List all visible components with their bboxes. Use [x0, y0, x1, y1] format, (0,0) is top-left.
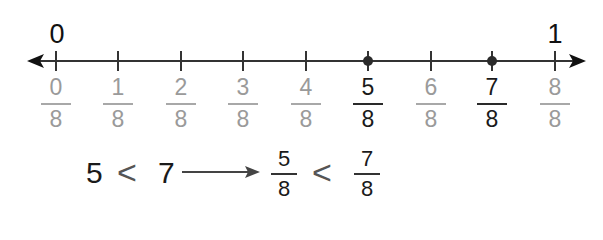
fraction-a: 5 8: [271, 148, 297, 200]
tick-fraction-label: 68: [416, 76, 446, 131]
numerator: 1: [103, 76, 133, 100]
numerator: 3: [228, 76, 258, 100]
start-label: 0: [49, 21, 64, 48]
numerator: 6: [416, 76, 446, 100]
fraction-bar: [41, 103, 71, 105]
tick-fraction-label: 48: [291, 76, 321, 131]
point-marker: [487, 56, 497, 66]
whole-number-b: 7: [158, 158, 175, 188]
fraction-a-denominator: 8: [271, 178, 297, 200]
fraction-bar: [540, 103, 570, 105]
denominator: 8: [228, 108, 258, 131]
denominator: 8: [291, 108, 321, 131]
denominator: 8: [41, 108, 71, 131]
denominator: 8: [166, 108, 196, 131]
fraction-bar: [166, 103, 196, 105]
fraction-bar: [291, 103, 321, 105]
tick-fraction-label: 58: [353, 76, 383, 131]
fraction-bar: [271, 173, 297, 175]
fraction-b-numerator: 7: [354, 148, 380, 170]
fraction-a-numerator: 5: [271, 148, 297, 170]
numerator: 2: [166, 76, 196, 100]
numerator: 7: [477, 76, 507, 100]
fraction-b: 7 8: [354, 148, 380, 200]
numerator: 5: [353, 76, 383, 100]
tick-fraction-label: 18: [103, 76, 133, 131]
fraction-b-denominator: 8: [354, 178, 380, 200]
end-label: 1: [547, 21, 562, 48]
denominator: 8: [540, 108, 570, 131]
tick-fraction-label: 08: [41, 76, 71, 131]
less-than-sign-fractions: <: [312, 155, 332, 189]
numerator: 8: [540, 76, 570, 100]
denominator: 8: [416, 108, 446, 131]
tick-fraction-label: 88: [540, 76, 570, 131]
denominator: 8: [353, 108, 383, 131]
denominator: 8: [477, 108, 507, 131]
tick-fraction-label: 78: [477, 76, 507, 131]
fraction-bar: [103, 103, 133, 105]
numerator: 0: [41, 76, 71, 100]
fraction-bar: [354, 173, 380, 175]
fraction-bar: [353, 103, 383, 105]
tick-fraction-label: 28: [166, 76, 196, 131]
numerator: 4: [291, 76, 321, 100]
fraction-bar: [477, 103, 507, 105]
less-than-sign: <: [117, 155, 137, 189]
tick-fraction-label: 38: [228, 76, 258, 131]
point-marker: [363, 56, 373, 66]
fraction-bar: [416, 103, 446, 105]
whole-number-a: 5: [86, 158, 103, 188]
fraction-bar: [228, 103, 258, 105]
denominator: 8: [103, 108, 133, 131]
